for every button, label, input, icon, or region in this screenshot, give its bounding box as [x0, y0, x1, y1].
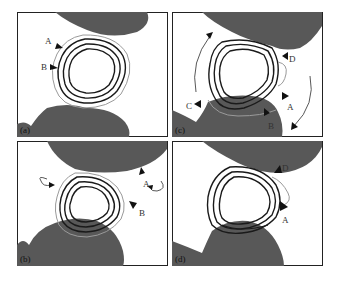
panel-b-diagram: A B (b) — [17, 141, 168, 266]
panel-a-diagram: A B (a) — [17, 12, 168, 137]
marker-label-b: B — [268, 121, 274, 131]
panel-a: A B (a) — [17, 12, 168, 137]
marker-label-a: A — [287, 102, 294, 112]
marker-label-a: A — [282, 215, 289, 225]
panel-label-b: (b) — [20, 254, 31, 264]
panel-label-c: (c) — [175, 125, 185, 135]
marker-label-d: D — [289, 54, 296, 64]
panel-c-diagram: D A B C (c) — [172, 12, 323, 137]
marker-label-d: D — [282, 163, 289, 173]
marker-label-b: B — [41, 62, 47, 72]
figure: A B (a) D — [0, 0, 339, 281]
panel-d-diagram: D A (d) — [172, 141, 323, 266]
panel-d: D A (d) — [172, 141, 323, 266]
marker-label-a: A — [45, 36, 52, 46]
marker-label-b: B — [139, 208, 145, 218]
panel-c: D A B C (c) — [172, 12, 323, 137]
panel-label-a: (a) — [20, 125, 30, 135]
panel-label-d: (d) — [175, 254, 186, 264]
panel-b: A B (b) — [17, 141, 168, 266]
marker-label-c: C — [186, 101, 192, 111]
marker-label-a: A — [143, 179, 150, 189]
